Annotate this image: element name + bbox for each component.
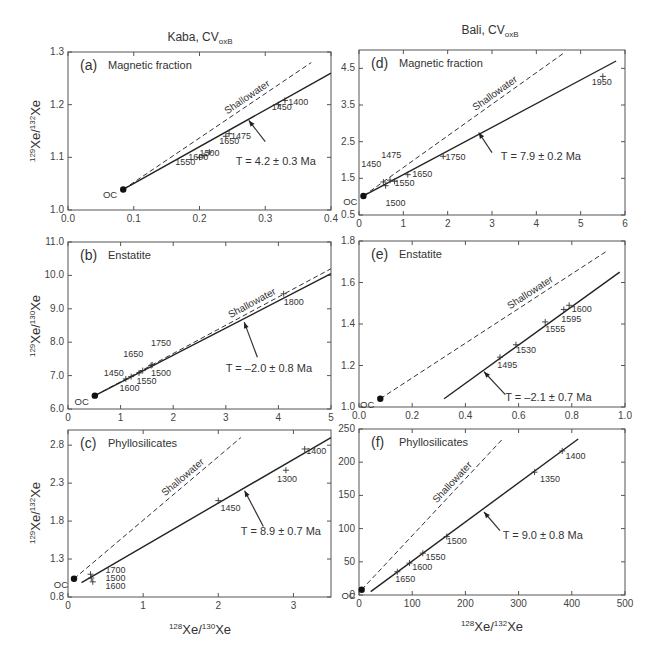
age-annotation: T = 8.9 ± 0.7 Ma [241,525,322,537]
x-tick-label: 4 [534,218,540,229]
shallowater-label: Shallowater [505,273,555,311]
temperature-label: 1550 [394,178,414,188]
panel-a: 0.00.10.20.30.41.01.11.21.3(a)Magnetic f… [50,46,338,224]
x-tick-label: 0 [356,598,362,609]
x-tick-label: 0 [65,412,71,423]
y-tick-label: 150 [338,489,355,500]
temperature-label: 1530 [516,345,536,355]
x-tick-label: 2 [216,600,222,611]
age-annotation: T = –2.1 ± 0.7 Ma [505,391,592,403]
y-tick-label: 11.0 [45,236,64,247]
y-tick-label: 1.3 [50,553,64,564]
oc-label: OC [103,189,117,200]
oc-label: OC [360,399,374,410]
panel-label: (e) [371,246,388,262]
isochron-line [95,274,331,396]
y-tick-label: 1.8 [341,235,355,246]
x-tick-label: 400 [563,598,580,609]
shallowater-label: Shallowater [430,459,474,505]
temperature-label: 1300 [277,474,297,484]
x-tick-label: 100 [404,598,421,609]
isochron-line [363,61,616,196]
y-tick-label: 8.0 [50,336,64,347]
temperature-label: 1350 [540,474,560,484]
oc-point [358,586,364,592]
x-tick-label: 0 [65,600,71,611]
x-tick-label: 0.1 [127,213,141,224]
panel-title: Magnetic fraction [399,57,483,69]
x-tick-label: 1 [118,412,124,423]
x-tick-label: 0.2 [405,410,419,421]
x-tick-label: 1.0 [618,410,632,421]
x-tick-label: 2 [170,412,176,423]
shallowater-line [363,54,563,196]
temperature-label: 1500 [151,368,171,378]
annotation-arrow [245,491,264,527]
x-tick-label: 3 [489,218,495,229]
oc-point [92,392,98,398]
shallowater-label: Shallowater [159,456,207,499]
x-tick-label: 1 [140,600,146,611]
y-tick-label: 1.0 [341,401,355,412]
y-axis-title-a: 129Xe/132Xe [28,100,43,162]
panel-e: 0.00.20.40.60.81.01.01.21.41.61.8(e)Enst… [341,235,632,421]
x-tick-label: 0 [356,218,362,229]
age-annotation: T = 9.0 ± 0.8 Ma [503,529,584,541]
panel-title: Phyllosilicates [399,436,469,448]
y-tick-label: 1.1 [50,151,64,162]
x-tick-label: 0.6 [512,410,526,421]
y-tick-label: 1.2 [341,360,355,371]
temperature-label: 1650 [123,349,143,359]
plot-frame [359,241,625,407]
panel-b: 0123456.07.08.09.010.011.0(b)EnstatiteSh… [45,236,335,423]
temperature-label: 1500 [200,148,220,158]
x-tick-label: 5 [328,412,334,423]
plot-frame [68,242,331,409]
oc-label: OC [54,579,68,590]
shallowater-label: Shallowater [470,73,519,113]
y-tick-label: 10.0 [45,269,65,280]
age-annotation: T = 7.9 ± 0.2 Ma [501,150,582,162]
temperature-label: 1750 [445,152,465,162]
y-tick-label: 3.5 [341,99,355,110]
oc-point [120,186,126,192]
x-tick-label: 300 [510,598,527,609]
oc-point [71,576,77,582]
x-axis-title-left: 128Xe/130Xe [169,622,231,637]
temperature-label: 1550 [426,552,446,562]
y-tick-label: 2.5 [341,136,355,147]
x-tick-label: 0.4 [458,410,472,421]
y-tick-label: 100 [338,523,355,534]
temperature-label: 1495 [497,360,517,370]
y-tick-label: 0.8 [50,591,64,602]
isochron-line [82,438,331,583]
temperature-label: 1400 [288,97,308,107]
y-tick-label: 50 [344,556,356,567]
panel-label: (a) [80,57,97,73]
panel-title: Magnetic fraction [108,59,192,71]
column-title-bali: Bali, CVoxB [461,23,518,39]
panel-f: 0100200300400500050100150200250(f)Phyllo… [338,423,633,609]
y-tick-label: 250 [338,423,355,434]
temperature-label: 1950 [592,77,612,87]
panel-label: (c) [80,435,96,451]
shallowater-line [123,63,311,190]
temperature-label: 1595 [561,314,581,324]
panel-label: (d) [371,55,388,71]
plot-frame [359,50,625,215]
panel-d: 01234560.51.52.53.54.5(d)Magnetic fracti… [341,50,628,229]
panel-label: (b) [80,247,97,263]
temperature-label: 1750 [151,338,171,348]
temperature-label: 1555 [545,324,565,334]
y-tick-label: 1.6 [341,277,355,288]
temperature-label: 1600 [572,304,592,314]
y-tick-label: 4.5 [341,62,355,73]
y-tick-label: 6.0 [50,403,64,414]
svg-text:129Xe/130Xe: 129Xe/130Xe [28,295,43,357]
y-tick-label: 2.8 [50,439,64,450]
temperature-label: 1800 [284,297,304,307]
column-title-kaba: Kaba, CVoxB [167,30,232,46]
shallowater-line [380,251,606,398]
x-tick-label: 2 [445,218,451,229]
age-annotation: T = –2.0 ± 0.8 Ma [226,362,313,374]
